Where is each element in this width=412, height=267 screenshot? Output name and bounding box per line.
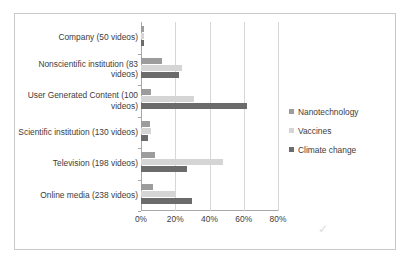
bar <box>141 40 144 46</box>
bar-group <box>141 54 278 86</box>
legend-item[interactable]: Nanotechnology <box>289 102 389 121</box>
category-axis-label: Online media (238 videos) <box>18 190 138 201</box>
legend-swatch-icon <box>289 147 294 152</box>
scan-artifact-mark: ✓ <box>318 222 332 236</box>
bar-chart-figure: Company (50 videos)Nonscientific institu… <box>0 0 412 267</box>
bar <box>141 159 223 165</box>
legend-label: Vaccines <box>298 126 331 136</box>
legend-label: Climate change <box>298 145 356 155</box>
bar <box>141 26 144 32</box>
bar <box>141 135 148 141</box>
bar <box>141 103 247 109</box>
category-axis-tick <box>138 211 141 212</box>
bar <box>141 166 187 172</box>
legend-swatch-icon <box>289 128 294 133</box>
gridline <box>278 22 279 211</box>
category-axis-label: User Generated Content (100 videos) <box>18 90 138 111</box>
legend-item[interactable]: Vaccines <box>289 121 389 140</box>
bar <box>141 191 175 197</box>
value-axis-tick-label: 80% <box>258 214 298 224</box>
bar <box>141 89 151 95</box>
category-axis-label: Company (50 videos) <box>18 32 138 43</box>
chart-legend: NanotechnologyVaccinesClimate change <box>289 102 389 159</box>
bar-group <box>141 22 278 54</box>
bar <box>141 128 151 134</box>
value-axis-labels: 0%20%40%60%80% <box>141 214 278 228</box>
bar-group <box>141 117 278 149</box>
category-axis-label: Scientific institution (130 videos) <box>18 127 138 138</box>
bar <box>141 152 155 158</box>
bar <box>141 184 153 190</box>
bar <box>141 96 194 102</box>
bar <box>141 198 192 204</box>
bar-group <box>141 85 278 117</box>
legend-item[interactable]: Climate change <box>289 140 389 159</box>
category-axis-label: Nonscientific institution (83 videos) <box>18 59 138 80</box>
plot-area <box>141 22 278 211</box>
bar <box>141 58 162 64</box>
legend-label: Nanotechnology <box>298 107 359 117</box>
legend-swatch-icon <box>289 109 294 114</box>
bar <box>141 121 150 127</box>
bar <box>141 65 182 71</box>
category-axis-label: Television (198 videos) <box>18 158 138 169</box>
bar <box>141 72 179 78</box>
bar <box>141 33 144 39</box>
bar-group <box>141 180 278 212</box>
bar-group <box>141 148 278 180</box>
category-axis-labels: Company (50 videos)Nonscientific institu… <box>18 22 138 211</box>
